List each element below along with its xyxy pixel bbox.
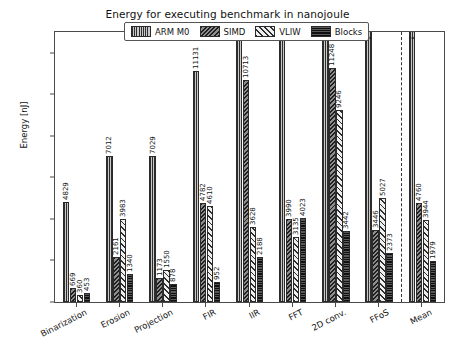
x-tick-mark [378,303,379,307]
bar-column: 7012 [106,32,112,302]
bar-column: 3990 [286,32,292,302]
bar-value-label: 2161 [112,237,120,255]
bar[interactable]: 2161 [113,257,119,302]
bar[interactable]: 11131 [193,71,199,302]
legend-swatch-blocks [311,26,331,37]
bar-value-label: 2188 [256,237,264,255]
bar-value-label: 7029 [149,136,157,154]
bar-column: 11248 [329,32,335,302]
x-tick-label: Erosion [99,307,131,330]
bar[interactable]: 3442 [343,231,349,302]
y-tick-mark [50,94,54,95]
bar-column: 4760 [416,32,422,302]
legend-item-blocks[interactable]: Blocks [311,26,362,37]
bar[interactable]: 3944 [423,220,429,302]
bar-group: 4829669360453 [63,32,90,302]
bar[interactable]: 4782 [200,203,206,302]
bar-group: 7012216139831340 [106,32,133,302]
bar-value-label: 4829 [62,182,70,200]
bar-column: ↓ 14323 [365,32,371,302]
plot-area: 4829669360453701221613983134070291173155… [55,32,444,302]
bar[interactable]: 1340 [127,274,133,302]
bar-value-label: 1340 [126,254,134,272]
bar-column: 1550 [163,32,169,302]
chart-figure: Energy for executing benchmark in nanojo… [0,0,455,354]
bar-column: 5027 [379,32,385,302]
bar-column: 3628 [250,32,256,302]
legend-item-simd[interactable]: SIMD [200,26,246,37]
bar-column: ↓ 16703 [409,32,415,302]
bar[interactable]: 10713 [243,80,249,303]
bar-value-label: 1550 [163,250,171,268]
bar[interactable]: 3135 [293,237,299,302]
x-tick-mark [205,303,206,307]
bar-value-label: 4023 [299,199,307,217]
bar-value-label: 453 [83,277,91,290]
bar-value-label: 2373 [386,233,394,251]
bar[interactable]: 1979 [430,261,436,302]
bar-value-label: 3135 [292,217,300,235]
mean-divider [401,32,402,302]
bar-value-label: 7012 [105,137,113,155]
bar[interactable]: 952 [214,282,220,302]
bar-group: 702911731550878 [149,32,176,302]
y-tick-mark [50,218,54,219]
bar[interactable]: 9246 [336,110,342,302]
bar-column: 1979 [430,32,436,302]
bar-column: 3135 [293,32,299,302]
bar-column: 2188 [257,32,263,302]
x-tick-label: Projection [133,307,175,335]
legend-item-arm-m0[interactable]: ARM M0 [131,26,190,37]
legend-swatch-vliw [255,26,275,37]
bar[interactable]: 5027 [379,198,385,302]
bar-column: 10713 [243,32,249,302]
bar-column: 669 [70,32,76,302]
bar-column: 11131 [193,32,199,302]
bar[interactable] [322,31,328,302]
y-tick-mark [50,302,54,303]
plot-frame: 4829669360453701221613983134070291173155… [54,31,445,303]
x-tick-mark [421,303,422,307]
bar-value-label: 5027 [379,178,387,196]
bar-column: 4023 [300,32,306,302]
y-tick-mark [50,52,54,53]
bar[interactable] [365,31,371,302]
bar[interactable]: 7012 [106,156,112,302]
bar-value-label: 4610 [206,186,214,204]
legend-label-arm-m0: ARM M0 [155,27,190,37]
bar[interactable]: 7029 [149,156,155,302]
bar-group: ↓ 184341124892463442 [322,32,349,302]
legend-item-vliw[interactable]: VLIW [255,26,300,37]
bar[interactable]: 4610 [207,206,213,302]
bar[interactable]: 1173 [156,278,162,302]
bar-value-label: 9246 [335,90,343,108]
bar[interactable]: 3446 [372,230,378,302]
bar-column: 3442 [343,32,349,302]
legend-label-vliw: VLIW [279,27,300,37]
x-tick-mark [162,303,163,307]
bar[interactable]: 2373 [386,253,392,302]
x-tick-mark [292,303,293,307]
x-tick-mark [76,303,77,307]
y-tick-mark [50,260,54,261]
bar[interactable]: 878 [170,284,176,302]
bar[interactable]: 4829 [63,202,69,302]
bar-value-label: 11131 [192,47,200,69]
bar[interactable] [409,31,415,302]
bar[interactable] [279,31,285,302]
bar[interactable]: 2188 [257,257,263,302]
bar[interactable]: 4023 [300,218,306,302]
bar-value-label: 3944 [422,200,430,218]
bar-value-label: 3628 [249,207,257,225]
bar-value-label: 3446 [372,211,380,229]
bar[interactable]: 360 [77,295,83,302]
bar[interactable]: 453 [84,293,90,302]
x-tick-label: FFoS [368,307,390,325]
bar-column: 4610 [207,32,213,302]
bar-value-label: 952 [213,267,221,280]
bar-value-label: 1979 [429,241,437,259]
bar-value-label: 10713 [242,55,250,77]
legend-swatch-arm-m0 [131,26,151,37]
bar-column: 453 [84,32,90,302]
chart-legend: ARM M0 SIMD VLIW Blocks [124,22,369,41]
